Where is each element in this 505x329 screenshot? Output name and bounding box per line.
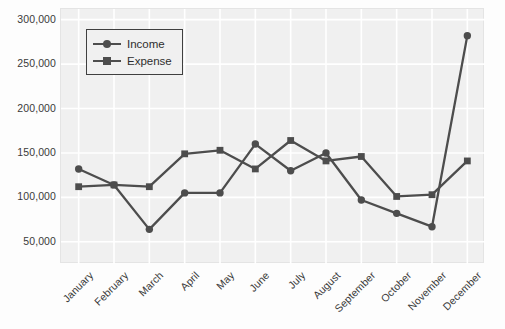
data-point[interactable] bbox=[428, 223, 435, 230]
data-point[interactable] bbox=[358, 196, 365, 203]
data-point[interactable] bbox=[429, 191, 436, 198]
data-point[interactable] bbox=[75, 183, 82, 190]
legend-item-income[interactable]: Income bbox=[93, 35, 172, 52]
legend-label-expense: Expense bbox=[127, 55, 172, 67]
data-point[interactable] bbox=[358, 153, 365, 160]
data-point[interactable] bbox=[146, 183, 153, 190]
y-tick-label: 50,000 bbox=[0, 235, 56, 247]
data-point[interactable] bbox=[464, 158, 471, 165]
data-point[interactable] bbox=[323, 158, 330, 165]
chart-legend: Income Expense bbox=[86, 29, 183, 75]
series-line-expense bbox=[79, 140, 468, 196]
circle-marker-icon bbox=[93, 37, 121, 51]
data-point[interactable] bbox=[393, 210, 400, 217]
data-point[interactable] bbox=[146, 226, 153, 233]
data-point[interactable] bbox=[287, 137, 294, 144]
data-point[interactable] bbox=[216, 189, 223, 196]
x-axis: JanuaryFebruaryMarchAprilMayJuneJulyAugu… bbox=[0, 263, 505, 329]
square-marker-icon bbox=[93, 54, 121, 68]
y-tick-label: 250,000 bbox=[0, 57, 56, 69]
data-point[interactable] bbox=[111, 182, 118, 189]
y-tick-label: 200,000 bbox=[0, 102, 56, 114]
data-point[interactable] bbox=[287, 167, 294, 174]
data-point[interactable] bbox=[252, 166, 259, 173]
y-tick-label: 150,000 bbox=[0, 146, 56, 158]
data-point[interactable] bbox=[464, 32, 471, 39]
y-tick-label: 100,000 bbox=[0, 190, 56, 202]
data-point[interactable] bbox=[181, 150, 188, 157]
legend-item-expense[interactable]: Expense bbox=[93, 52, 172, 69]
line-chart: 50,000100,000150,000200,000250,000300,00… bbox=[0, 0, 505, 329]
data-point[interactable] bbox=[393, 193, 400, 200]
data-point[interactable] bbox=[181, 189, 188, 196]
legend-label-income: Income bbox=[127, 38, 165, 50]
y-tick-label: 300,000 bbox=[0, 13, 56, 25]
data-point[interactable] bbox=[217, 147, 224, 154]
data-point[interactable] bbox=[322, 149, 329, 156]
data-point[interactable] bbox=[75, 165, 82, 172]
data-point[interactable] bbox=[252, 140, 259, 147]
